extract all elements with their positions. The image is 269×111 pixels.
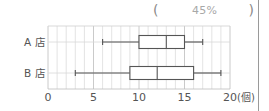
x-axis-ticks: 05101520(個) [45, 91, 255, 104]
x-tick-label: 5 [90, 91, 97, 104]
x-tick-label: 15 [178, 91, 192, 104]
box-b [75, 67, 221, 80]
box-a [103, 36, 203, 49]
boxplot-chart: 05101520(個) A 店 B 店 [0, 0, 269, 111]
x-tick-label: 20 [223, 91, 237, 104]
x-unit-label: (個) [237, 91, 255, 103]
x-tick-label: 10 [132, 91, 146, 104]
category-label-b: B 店 [24, 67, 45, 79]
x-tick-label: 0 [45, 91, 52, 104]
category-label-a: A 店 [24, 36, 45, 48]
